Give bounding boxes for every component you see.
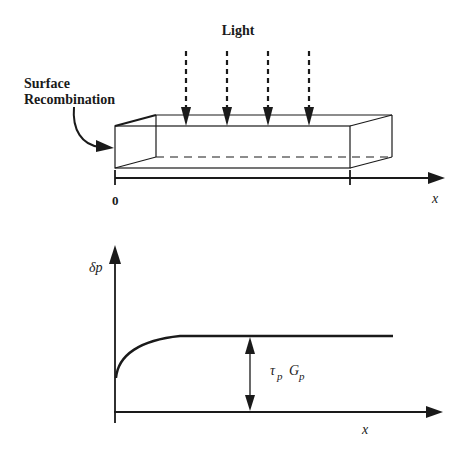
x-axis-label: x: [361, 422, 369, 437]
top-x-axis-label: x: [431, 191, 439, 206]
origin-label: 0: [112, 193, 119, 208]
down-arrowhead-icon: [245, 395, 255, 411]
surface-label-line1: Surface: [24, 76, 70, 91]
axis-arrow-icon: [428, 172, 445, 184]
tau-subscript: p: [276, 370, 283, 382]
semiconductor-bar: [115, 115, 392, 168]
light-label: Light: [222, 23, 255, 38]
surface-label-line2: Recombination: [24, 92, 115, 107]
x-axis-arrow-icon: [426, 406, 443, 418]
light-label-group: Light: [222, 23, 255, 38]
surface-recombination-group: Surface Recombination: [24, 76, 115, 152]
y-axis-arrow-icon: [109, 245, 121, 264]
bottom-chart: [109, 245, 443, 423]
g-symbol: G: [289, 363, 299, 378]
g-subscript: p: [298, 370, 305, 382]
y-axis-label: δp: [89, 260, 103, 275]
diagram-canvas: Light: [0, 0, 461, 453]
up-arrowhead-icon: [245, 337, 255, 354]
bar-front-face: [115, 126, 350, 168]
curved-arrow-head-icon: [96, 140, 114, 152]
top-x-axis: [115, 170, 445, 185]
delta-p-curve: [116, 336, 393, 378]
tau-symbol: τ: [270, 363, 276, 378]
tau-gp-annotation: τ p G p: [270, 363, 305, 382]
